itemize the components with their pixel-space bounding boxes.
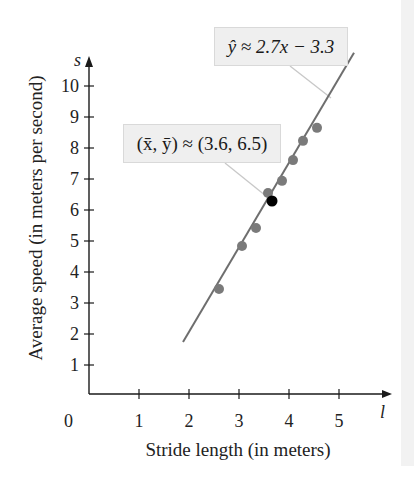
mean-point-text: (x̄, ȳ) ≈ (3.6, 6.5) — [137, 133, 268, 155]
mean-point-callout: (x̄, ȳ) ≈ (3.6, 6.5) — [123, 124, 281, 163]
y-var-label: s — [74, 50, 81, 70]
y-tick-label: 5 — [70, 231, 79, 251]
x-tick-label: 3 — [235, 411, 244, 431]
data-point — [288, 155, 298, 165]
y-tick-label: 4 — [70, 262, 79, 282]
x-axis-arrow-icon — [382, 390, 392, 398]
data-point — [277, 176, 287, 186]
y-tick-label: 8 — [70, 138, 79, 158]
y-tick-label: 1 — [70, 355, 79, 375]
data-point — [298, 136, 308, 146]
data-point — [237, 241, 247, 251]
mean-leader-line — [225, 163, 266, 196]
y-tick-label: 2 — [70, 324, 79, 344]
y-tick-label: 6 — [70, 200, 79, 220]
x-var-label: l — [380, 402, 385, 422]
scatter-chart: 1234512345678910 s l 0 Stride length (in… — [0, 0, 414, 485]
y-tick-label: 10 — [61, 76, 79, 96]
regression-equation-text: ŷ ≈ 2.7x − 3.3 — [228, 36, 335, 58]
data-point — [251, 223, 261, 233]
y-axis-arrow-icon — [85, 56, 93, 67]
data-point — [214, 284, 224, 294]
regression-leader-line — [290, 66, 331, 98]
data-point — [312, 123, 322, 133]
y-tick-label: 3 — [70, 293, 79, 313]
y-tick-label: 9 — [70, 107, 79, 127]
origin-label: 0 — [64, 411, 73, 431]
x-tick-label: 1 — [135, 411, 144, 431]
x-tick-label: 2 — [185, 411, 194, 431]
axes — [85, 56, 392, 398]
y-axis-title: Average speed (in meters per second) — [25, 75, 47, 360]
y-tick-label: 7 — [70, 169, 79, 189]
x-tick-label: 5 — [335, 411, 344, 431]
x-tick-label: 4 — [285, 411, 294, 431]
mean-point-marker — [267, 196, 278, 207]
x-axis-title: Stride length (in meters) — [145, 439, 330, 461]
regression-equation-callout: ŷ ≈ 2.7x − 3.3 — [214, 27, 348, 66]
